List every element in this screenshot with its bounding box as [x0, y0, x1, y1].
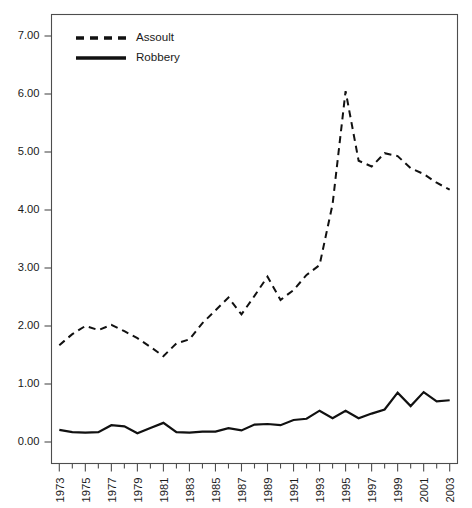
series-line-assoult: [59, 91, 449, 356]
x-axis-tick-label: 1973: [54, 478, 66, 503]
x-axis-tick-label: 2001: [418, 478, 430, 503]
x-axis-tick-label: 1981: [158, 478, 170, 503]
legend-label-robbery: Robbery: [136, 50, 180, 63]
x-axis-tick-label: 1999: [392, 478, 404, 503]
x-axis-tick-label: 2003: [444, 478, 456, 503]
x-axis-tick-label: 1997: [366, 478, 378, 503]
x-axis-tick-label: 1989: [262, 478, 274, 503]
y-axis-tick-label: 0.00: [18, 435, 40, 447]
x-axis-tick-label: 1979: [132, 478, 144, 503]
data-series-group: [59, 91, 449, 433]
chart-legend: Assoult Robbery: [76, 30, 180, 63]
x-axis-tick-label: 1987: [236, 478, 248, 503]
legend-label-assault: Assoult: [136, 30, 175, 43]
y-axis-tick-label: 4.00: [18, 203, 40, 215]
y-axis-tick-label: 2.00: [18, 319, 40, 331]
x-axis-tick-label: 1975: [80, 478, 92, 503]
plot-frame: [52, 15, 458, 464]
x-axis-tick-label: 1985: [210, 478, 222, 503]
x-axis-tick-label: 1977: [106, 478, 118, 503]
x-axis-tick-label: 1993: [314, 478, 326, 503]
line-chart-figure: 0.001.002.003.004.005.006.007.00 1973197…: [0, 0, 472, 508]
y-axis-tick-label: 3.00: [18, 261, 40, 273]
y-axis-tick-label: 7.00: [18, 29, 40, 41]
y-axis-tick-label: 6.00: [18, 87, 40, 99]
x-axis-tick-label: 1991: [288, 478, 300, 503]
y-axis-tick-label: 1.00: [18, 377, 40, 389]
series-line-robbery: [59, 392, 449, 433]
y-axis-tick-label: 5.00: [18, 145, 40, 157]
chart-container: 0.001.002.003.004.005.006.007.00 1973197…: [0, 0, 472, 508]
x-axis: 1973197519771979198119831985198719891991…: [54, 464, 456, 503]
x-axis-tick-label: 1995: [340, 478, 352, 503]
x-axis-tick-label: 1983: [184, 478, 196, 503]
y-axis: 0.001.002.003.004.005.006.007.00: [18, 29, 52, 447]
